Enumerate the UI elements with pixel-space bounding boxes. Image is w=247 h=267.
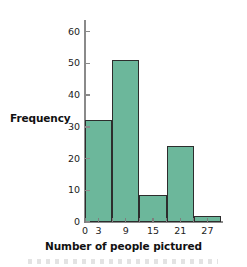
y-tick <box>85 94 90 96</box>
y-axis-title: Frequency <box>10 112 71 124</box>
y-tick-label: 60 <box>58 26 80 37</box>
x-tick <box>193 218 194 223</box>
x-tick <box>166 218 167 223</box>
x-tick <box>152 218 153 223</box>
y-tick <box>85 221 90 223</box>
bar <box>167 146 194 222</box>
x-tick <box>207 218 208 223</box>
x-axis-title: Number of people pictured <box>0 240 247 252</box>
x-tick <box>180 218 181 223</box>
x-tick-label: 21 <box>170 225 190 236</box>
y-tick <box>85 126 90 128</box>
x-tick-label: 9 <box>116 225 136 236</box>
x-tick <box>139 218 140 223</box>
x-tick-label: 15 <box>143 225 163 236</box>
bar <box>112 60 139 222</box>
x-tick <box>125 218 126 223</box>
page-caption-artifact <box>28 259 218 264</box>
x-tick <box>112 218 113 223</box>
bar <box>85 120 112 222</box>
y-tick-label: 10 <box>58 184 80 195</box>
x-tick-label: 27 <box>197 225 217 236</box>
y-tick <box>85 190 90 192</box>
x-tick-label: 3 <box>89 225 109 236</box>
y-tick-label: 20 <box>58 153 80 164</box>
y-tick-label: 50 <box>58 57 80 68</box>
x-tick <box>98 218 99 223</box>
y-tick <box>85 158 90 160</box>
y-tick-label: 40 <box>58 89 80 100</box>
histogram-chart: 0102030405060 039152127 Frequency Number… <box>0 0 247 267</box>
y-tick <box>85 63 90 65</box>
x-tick <box>84 218 85 223</box>
y-tick <box>85 31 90 33</box>
